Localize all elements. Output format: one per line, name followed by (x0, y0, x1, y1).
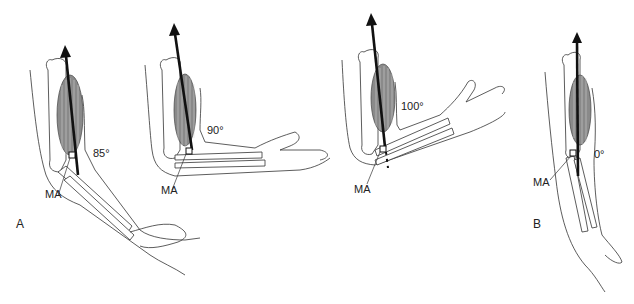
ma-label-100: MA (354, 183, 371, 195)
biceps-moment-arm-figure: A B 85° MA 90° MA 100° MA 0° MA (0, 0, 634, 304)
ma-label-85: MA (45, 188, 62, 200)
panel-label-b: B (533, 217, 541, 231)
arm-100-drawing (342, 13, 505, 184)
angle-label-100: 100° (401, 100, 424, 112)
ma-label-0: MA (533, 176, 550, 188)
angle-label-90: 90° (207, 124, 224, 136)
arm-90-drawing (145, 23, 330, 190)
angle-label-85: 85° (93, 147, 110, 159)
ma-label-90: MA (161, 184, 178, 196)
arm-0-drawing (545, 32, 622, 292)
angle-label-0: 0° (594, 148, 605, 160)
panel-label-a: A (16, 217, 24, 231)
